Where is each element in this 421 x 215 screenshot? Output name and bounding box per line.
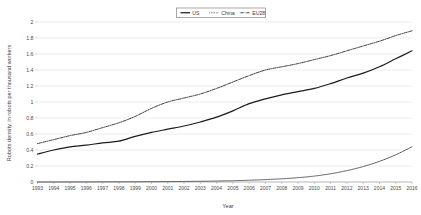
line-chart: 00.20.40.60.811.21.41.61.82 199319941995… (0, 0, 421, 215)
x-tick-label: 2014 (374, 185, 385, 191)
x-tick-label: 2003 (195, 185, 206, 191)
y-tick-label: 1.2 (26, 83, 33, 89)
x-tick-label: 2009 (292, 185, 303, 191)
y-axis-title: Robots density, in robots per thousand w… (6, 45, 12, 162)
x-tick-label: 1999 (130, 185, 141, 191)
y-tick-label: 1.6 (26, 51, 33, 57)
x-tick-label: 2012 (341, 185, 352, 191)
x-tick-label: 2008 (276, 185, 287, 191)
series-line-china (38, 147, 413, 182)
series-line-us (38, 51, 413, 154)
y-tick-label: 1.4 (26, 67, 33, 73)
x-tick-label: 1994 (48, 185, 59, 191)
y-tick-label: 1 (31, 99, 34, 105)
y-axis-tick-labels: 00.20.40.60.811.21.41.61.82 (26, 19, 33, 185)
x-tick-label: 2005 (227, 185, 238, 191)
x-tick-label: 1996 (81, 185, 92, 191)
series-line-eu28 (38, 31, 413, 144)
x-tick-label: 2002 (178, 185, 189, 191)
x-tick-label: 2006 (244, 185, 255, 191)
x-tick-label: 1997 (97, 185, 108, 191)
y-tick-label: 0.4 (26, 147, 33, 153)
x-axis-tick-labels: 1993199419951996199719981999200020012002… (32, 185, 418, 191)
x-tick-label: 2004 (211, 185, 222, 191)
chart-container: 00.20.40.60.811.21.41.61.82 199319941995… (0, 0, 421, 215)
gridlines (38, 22, 413, 182)
x-tick-label: 2015 (390, 185, 401, 191)
x-tick-label: 2000 (146, 185, 157, 191)
x-tick-label: 1993 (32, 185, 43, 191)
x-tick-label: 2001 (162, 185, 173, 191)
legend-label-eu28[interactable]: EU28 (252, 10, 265, 16)
axes (36, 22, 413, 184)
y-tick-label: 0 (31, 179, 34, 185)
x-tick-label: 2010 (309, 185, 320, 191)
chart-legend[interactable]: USChinaEU28 (177, 8, 266, 18)
x-tick-label: 2011 (325, 185, 336, 191)
x-axis-title: Year (222, 203, 233, 209)
x-tick-label: 1998 (113, 185, 124, 191)
y-tick-label: 0.8 (26, 115, 33, 121)
x-tick-label: 2016 (406, 185, 417, 191)
y-tick-label: 0.2 (26, 163, 33, 169)
legend-label-us[interactable]: US (192, 10, 200, 16)
legend-label-china[interactable]: China (221, 10, 235, 16)
y-tick-label: 2 (31, 19, 34, 25)
x-tick-label: 2013 (358, 185, 369, 191)
data-series (38, 31, 413, 182)
y-tick-label: 1.8 (26, 35, 33, 41)
x-tick-label: 2007 (260, 185, 271, 191)
x-tick-label: 1995 (65, 185, 76, 191)
y-tick-label: 0.6 (26, 131, 33, 137)
